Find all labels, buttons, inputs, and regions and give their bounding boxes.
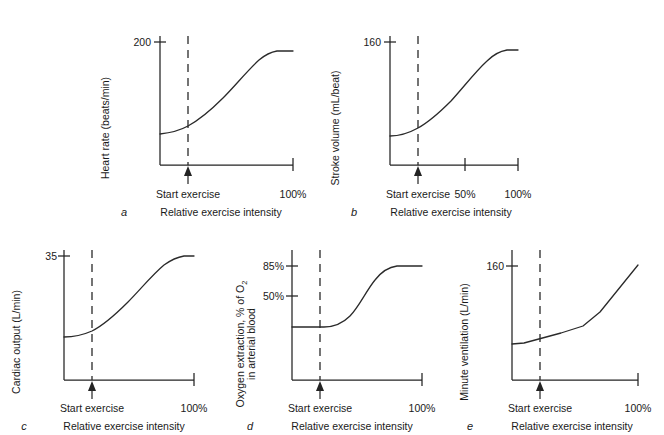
panel-c-start-exercise-label: Start exercise [60, 402, 124, 414]
panel-a-start-exercise-arrow-icon [184, 166, 192, 176]
panel-d: Oxygen extraction, % of O2 in arterial b… [228, 232, 453, 432]
panel-b-x-axis-caption: Relative exercise intensity [390, 206, 512, 218]
panel-d-start-exercise-label: Start exercise [288, 402, 352, 414]
panel-e-x-axis-caption: Relative exercise intensity [511, 420, 633, 432]
panel-b-data-curve [390, 50, 518, 136]
panel-c-x-axis-caption: Relative exercise intensity [63, 420, 185, 432]
panel-b-start-exercise-arrow-icon [414, 166, 422, 176]
panel-b-y-axis-label: Stroke volume (mL/beat) [329, 71, 341, 186]
panel-e-x-end-label: 100% [625, 402, 652, 414]
panel-b-x-mid-label: 50% [454, 188, 475, 200]
panel-d-start-exercise-arrow-icon [316, 381, 324, 391]
panel-c-start-exercise-arrow-icon [88, 381, 96, 391]
panel-a-letter: a [121, 206, 127, 218]
panel-d-x-axis-caption: Relative exercise intensity [291, 420, 413, 432]
panel-e-data-curve [512, 265, 638, 344]
panel-b: Stroke volume (mL/beat) 160 Start exerci… [325, 18, 560, 218]
panel-e-y-tick-label: 160 [486, 260, 504, 272]
panel-e-start-exercise-label: Start exercise [508, 402, 572, 414]
panel-c-y-tick-label: 35 [45, 250, 57, 262]
panel-a-y-axis-label: Heart rate (beats/min) [99, 77, 111, 179]
panel-c: Cardiac output (L/min) 35 Start exercise… [0, 232, 225, 432]
panel-b-start-exercise-label: Start exercise [386, 188, 450, 200]
panel-d-x-end-label: 100% [409, 402, 436, 414]
panel-c-data-curve [64, 256, 194, 337]
panel-a-x-axis-caption: Relative exercise intensity [160, 206, 282, 218]
panel-d-y-tick-label-low: 50% [263, 290, 284, 302]
panel-b-x-end-label: 100% [505, 188, 532, 200]
panel-a-y-tick-label: 200 [133, 36, 151, 48]
panel-e-letter: e [467, 420, 473, 432]
panel-d-y-tick-label-high: 85% [263, 260, 284, 272]
panel-c-letter: c [21, 420, 27, 432]
panel-d-data-curve [292, 266, 422, 327]
panel-c-y-axis-label: Cardiac output (L/min) [10, 290, 22, 394]
panel-c-x-end-label: 100% [181, 402, 208, 414]
panel-e: Minute ventilation (L/min) 160 Start exe… [448, 232, 664, 432]
panel-e-y-axis-label: Minute ventilation (L/min) [458, 283, 470, 400]
panel-e-start-exercise-arrow-icon [536, 381, 544, 391]
panel-a-x-end-label: 100% [280, 188, 307, 200]
panel-a-data-curve [160, 51, 293, 134]
panel-b-letter: b [351, 206, 357, 218]
panel-b-y-tick-label: 160 [363, 36, 381, 48]
panel-d-letter: d [247, 420, 254, 432]
panel-a: Heart rate (beats/min) 200 Start exercis… [95, 18, 320, 218]
figure-exercise-physiology-responses: Heart rate (beats/min) 200 Start exercis… [0, 0, 664, 435]
panel-a-start-exercise-label: Start exercise [156, 188, 220, 200]
panel-d-y-axis-label-line2: in arterial blood [245, 308, 257, 380]
